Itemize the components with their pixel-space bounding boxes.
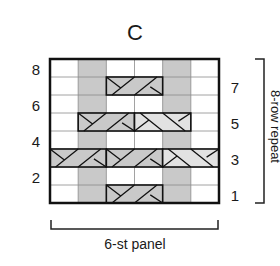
panel-bracket	[51, 220, 218, 229]
panel-label: 6-st panel	[50, 236, 220, 252]
knitting-chart	[0, 0, 280, 266]
repeat-bracket	[255, 59, 264, 203]
repeat-label: 8-row repeat	[268, 90, 280, 163]
